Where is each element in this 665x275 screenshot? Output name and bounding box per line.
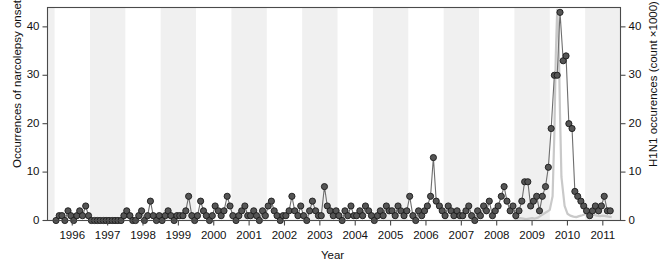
data-point xyxy=(79,213,85,219)
y-tick-label-left: 20 xyxy=(0,117,40,129)
x-tick-label: 2011 xyxy=(578,229,628,241)
data-point xyxy=(542,184,548,190)
chart-figure: Occurrences of narcolepsy onset H1N1 occ… xyxy=(0,0,665,275)
data-point xyxy=(392,213,398,219)
data-point xyxy=(554,72,560,78)
y-tick-label-left: 30 xyxy=(0,68,40,80)
data-point xyxy=(83,203,89,209)
data-point xyxy=(548,125,554,131)
data-point xyxy=(504,198,510,204)
data-point xyxy=(510,203,516,209)
data-point xyxy=(519,198,525,204)
data-point xyxy=(183,208,189,214)
data-point xyxy=(289,193,295,199)
data-point xyxy=(486,198,492,204)
year-band xyxy=(444,8,479,221)
data-point xyxy=(427,193,433,199)
year-band xyxy=(90,8,125,221)
data-point xyxy=(483,208,489,214)
data-point xyxy=(348,203,354,209)
data-point xyxy=(404,208,410,214)
data-point xyxy=(227,203,233,209)
data-point xyxy=(501,184,507,190)
data-point xyxy=(221,208,227,214)
data-point xyxy=(242,203,248,209)
y-tick-label-left: 10 xyxy=(0,165,40,177)
data-point xyxy=(598,203,604,209)
data-point xyxy=(209,213,215,219)
data-point xyxy=(607,208,613,214)
data-point xyxy=(601,193,607,199)
year-band xyxy=(231,8,266,221)
year-band xyxy=(302,8,337,221)
data-point xyxy=(539,193,545,199)
year-band xyxy=(48,8,55,221)
data-point xyxy=(321,184,327,190)
y-tick-label-right: 40 xyxy=(629,20,657,32)
data-point xyxy=(442,213,448,219)
data-point xyxy=(198,198,204,204)
year-band xyxy=(585,8,620,221)
data-point xyxy=(495,203,501,209)
data-point xyxy=(186,193,192,199)
data-point xyxy=(545,164,551,170)
data-point xyxy=(318,213,324,219)
data-point xyxy=(563,53,569,59)
data-point xyxy=(262,213,268,219)
data-point xyxy=(407,193,413,199)
data-point xyxy=(516,208,522,214)
y-tick-label-left: 0 xyxy=(0,214,40,226)
data-point xyxy=(138,208,144,214)
data-point xyxy=(569,125,575,131)
year-band xyxy=(373,8,408,221)
data-point xyxy=(424,203,430,209)
data-point xyxy=(345,213,351,219)
data-point xyxy=(536,208,542,214)
data-point xyxy=(360,213,366,219)
data-point xyxy=(557,9,563,15)
data-point xyxy=(268,198,274,204)
data-point xyxy=(306,208,312,214)
data-point xyxy=(498,193,504,199)
data-point xyxy=(430,154,436,160)
data-point xyxy=(477,213,483,219)
data-point xyxy=(194,213,200,219)
data-point xyxy=(525,179,531,185)
data-point xyxy=(298,203,304,209)
y-tick-label-left: 40 xyxy=(0,20,40,32)
y-tick-label-right: 20 xyxy=(629,117,657,129)
data-point xyxy=(224,193,230,199)
year-band xyxy=(161,8,196,221)
data-point xyxy=(309,198,315,204)
y-tick-label-right: 10 xyxy=(629,165,657,177)
data-point xyxy=(380,213,386,219)
data-point xyxy=(147,198,153,204)
y-tick-label-right: 0 xyxy=(629,214,657,226)
y-tick-label-right: 30 xyxy=(629,68,657,80)
data-point xyxy=(466,203,472,209)
